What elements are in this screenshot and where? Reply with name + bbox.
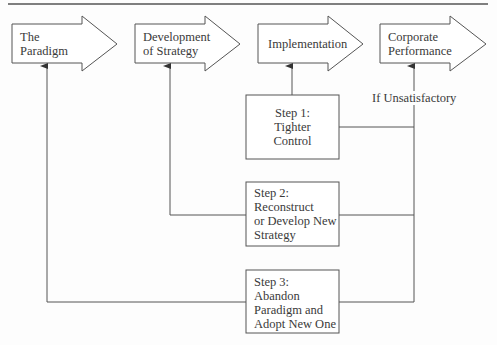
label-line: Step 2: [254, 186, 337, 200]
label-line: Abandon [254, 289, 336, 303]
label-line: Reconstruct [254, 200, 337, 214]
label-line: Adopt New One [254, 317, 336, 331]
step3-to-paradigm-arrow [47, 66, 246, 302]
label-line: or Develop New [254, 214, 337, 228]
label-line: Step 1: [246, 106, 339, 120]
stage-label-implementation: Implementation [268, 37, 347, 51]
condition-label: If Unsatisfactory [372, 91, 456, 105]
label-line: Corporate [388, 30, 452, 44]
label-line: Control [246, 134, 339, 148]
label-line: of Strategy [143, 44, 210, 58]
label-line: Tighter [246, 120, 339, 134]
step2-label: Step 2: Reconstruct or Develop New Strat… [254, 186, 337, 242]
step1-label: Step 1: Tighter Control [246, 106, 339, 148]
stage-label-paradigm: The Paradigm [20, 30, 68, 58]
stage-label-performance: Corporate Performance [388, 30, 452, 58]
label-line: Step 3: [254, 275, 336, 289]
label-line: Performance [388, 44, 452, 58]
label-line: Implementation [268, 37, 347, 51]
label-line: Strategy [254, 228, 337, 242]
step2-to-strategy-arrow [170, 66, 246, 215]
stage-label-strategy: Development of Strategy [143, 30, 210, 58]
step3-label: Step 3: Abandon Paradigm and Adopt New O… [254, 275, 336, 331]
label-line: Development [143, 30, 210, 44]
label-line: Paradigm [20, 44, 68, 58]
label-line: The [20, 30, 68, 44]
label-line: Paradigm and [254, 303, 336, 317]
